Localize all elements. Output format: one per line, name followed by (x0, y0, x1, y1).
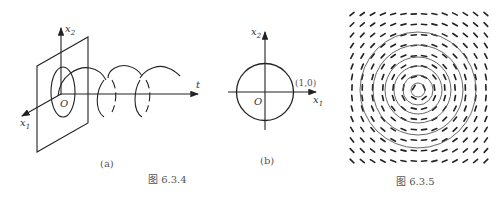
field-arrow (463, 33, 467, 36)
field-arrow (401, 65, 405, 68)
field-arrow (352, 74, 353, 79)
field-arrow (463, 23, 467, 26)
field-arrow (412, 97, 417, 99)
field-arrow (371, 117, 374, 121)
field-arrow (422, 35, 427, 36)
field-arrow (360, 23, 364, 26)
field-arrow (454, 75, 456, 80)
field-arrow (453, 13, 458, 15)
field-arrow (485, 54, 487, 59)
field-arrow (443, 128, 447, 131)
initial-ellipse (51, 67, 75, 117)
field-arrow (350, 33, 353, 37)
field-arrow (361, 44, 364, 48)
field-arrow (474, 138, 477, 142)
field-arrow (454, 106, 456, 111)
field-arrow (422, 129, 427, 130)
field-arrow (432, 55, 437, 57)
field-arrow (351, 43, 354, 47)
field-arrow (464, 44, 468, 48)
field-arrow (370, 160, 374, 163)
field-arrow (401, 24, 406, 25)
field-arrow (474, 12, 478, 15)
figure-634-caption: 图 6.3.4 (148, 174, 187, 185)
field-arrow (381, 160, 386, 162)
field-arrow (372, 95, 373, 100)
field-arrow (432, 65, 436, 68)
field-arrow (360, 13, 364, 16)
helix-arc-2b (97, 80, 104, 117)
x1-label-a: x1 (20, 117, 30, 131)
x2-label-b: x2 (251, 26, 262, 40)
field-arrow (444, 75, 446, 80)
field-arrow (361, 117, 363, 122)
field-arrow (351, 127, 354, 131)
field-arrow (402, 75, 405, 79)
field-arrow (464, 106, 466, 111)
orbit-circle (360, 32, 476, 148)
field-arrow (391, 139, 396, 141)
field-arrow (464, 128, 467, 132)
x1-axis (22, 94, 61, 116)
field-arrow (485, 117, 487, 122)
field-arrow (371, 33, 375, 36)
field-arrow (465, 75, 466, 80)
field-arrow (432, 160, 437, 161)
panel-b-caption: (b) (260, 155, 274, 166)
field-arrow (360, 159, 364, 162)
field-arrow (350, 138, 353, 142)
panel-a-helix-diagram (22, 28, 198, 152)
field-arrow (381, 128, 385, 131)
panel-b-labels: x2 x1 O (1,0) (b) (251, 26, 323, 166)
field-arrow (401, 14, 406, 15)
field-arrow (464, 117, 467, 121)
field-arrow (422, 96, 426, 99)
field-arrow (463, 13, 467, 16)
field-arrow (350, 23, 354, 27)
field-arrow (351, 106, 352, 111)
field-arrow (443, 65, 446, 69)
field-arrow (474, 149, 478, 153)
field-arrow (370, 13, 374, 16)
field-arrow (401, 129, 406, 131)
field-arrow (474, 54, 477, 58)
field-arrow (401, 161, 406, 162)
field-arrow (484, 23, 488, 27)
field-arrow (391, 160, 396, 162)
field-arrow (432, 45, 437, 47)
field-arrow (371, 23, 375, 26)
orbit-circle (403, 75, 433, 105)
field-arrow (432, 129, 437, 131)
helix-arc-3b (140, 66, 180, 78)
field-arrow (453, 160, 458, 162)
field-arrow (351, 64, 353, 69)
field-arrow (453, 128, 457, 132)
field-arrow (393, 85, 394, 90)
field-arrow (474, 33, 478, 37)
field-arrow (352, 95, 353, 100)
field-arrow (486, 95, 487, 100)
field-arrow (442, 24, 447, 26)
field-arrow (474, 23, 478, 26)
field-arrow (381, 13, 386, 15)
orbit-circle (373, 45, 463, 135)
t-label: t (196, 79, 201, 90)
field-arrow (453, 34, 457, 37)
field-arrow (391, 55, 395, 58)
x2-label-a: x2 (65, 23, 76, 37)
field-arrow (443, 117, 447, 121)
field-arrow (401, 55, 406, 57)
helix-arc-2c (112, 80, 116, 112)
field-arrow (360, 149, 364, 153)
orbit-circle (385, 57, 451, 123)
field-arrow (442, 34, 447, 36)
field-arrow (381, 139, 385, 142)
field-arrow (401, 45, 406, 47)
field-arrow (371, 149, 375, 152)
field-arrow (485, 127, 488, 131)
field-arrow (485, 43, 488, 47)
field-arrow (382, 96, 383, 101)
field-arrow (443, 44, 447, 47)
field-arrow (351, 117, 353, 122)
field-arrow (413, 85, 416, 89)
